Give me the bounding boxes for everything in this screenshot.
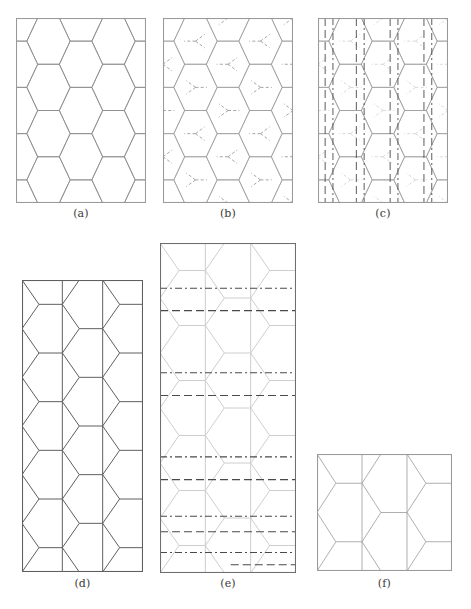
- panel-c-caption: (c): [318, 208, 448, 219]
- panel-d-drawing: [22, 280, 143, 572]
- panel-b: [163, 18, 293, 203]
- panel-a-mesh: [16, 18, 146, 203]
- panel-f-caption: (f): [317, 578, 452, 589]
- panel-a: [16, 18, 146, 203]
- panel-a-caption: (a): [16, 208, 146, 219]
- panel-c: [318, 18, 448, 203]
- panel-b-dual-graph-overlay: [163, 18, 293, 203]
- panel-f-mesh: [317, 454, 452, 571]
- panel-f: [317, 454, 452, 571]
- panel-d-mesh: [22, 280, 143, 572]
- panel-a-drawing: [16, 18, 146, 203]
- panel-e-caption: (e): [160, 578, 296, 589]
- panel-e-horizontal-cut-overlay: [160, 288, 296, 565]
- panel-d-caption: (d): [22, 578, 143, 589]
- panel-c-drawing: [318, 18, 448, 203]
- panel-b-caption: (b): [163, 208, 293, 219]
- panel-d: [22, 280, 143, 572]
- panel-a-frame: [17, 19, 146, 203]
- panel-e-mesh: [160, 243, 296, 573]
- panel-e: [160, 243, 296, 573]
- panel-c-vertical-cut-overlay: [318, 18, 448, 203]
- panel-e-drawing: [160, 243, 296, 573]
- panel-b-drawing: [163, 18, 293, 203]
- figure-root: (a)(b)(c)(d)(e)(f): [0, 0, 471, 609]
- panel-f-drawing: [317, 454, 452, 571]
